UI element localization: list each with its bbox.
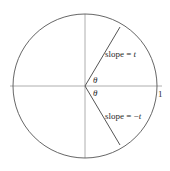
theta-lower-label: θ <box>93 89 97 98</box>
slope-t-prefix: slope = <box>105 49 134 59</box>
unit-circle-diagram <box>0 0 170 171</box>
theta-upper-label: θ <box>93 76 97 85</box>
slope-neg-t-label: slope = −t <box>105 112 141 121</box>
slope-t-label: slope = t <box>105 50 136 59</box>
slope-t-variable: t <box>134 49 137 59</box>
unit-radius-label: 1 <box>158 90 163 99</box>
slope-neg-t-prefix: slope = − <box>105 111 139 121</box>
slope-neg-t-variable: t <box>139 111 142 121</box>
